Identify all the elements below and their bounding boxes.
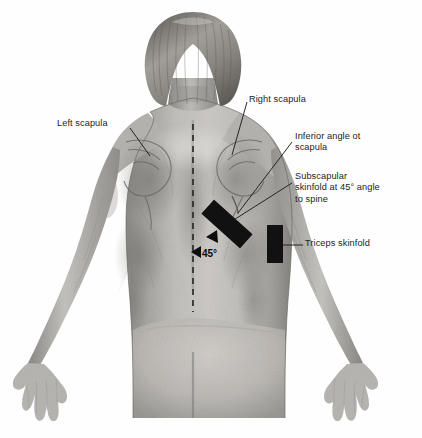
label-subscapular-skinfold: Subscapular skinfold at 45° angle to spi… xyxy=(295,171,380,205)
label-triceps-skinfold: Triceps skinfold xyxy=(305,238,370,249)
label-inferior-angle-of-scapula: Inferior angle ot scapula xyxy=(295,131,360,154)
triceps-mass-left xyxy=(96,174,118,218)
gluteal-region xyxy=(133,318,285,418)
label-left-scapula: Left scapula xyxy=(57,118,108,129)
triceps-skinfold-marker xyxy=(267,225,283,263)
body-figure xyxy=(13,12,378,421)
hand-left xyxy=(13,363,67,421)
anatomy-illustration xyxy=(0,0,422,438)
neck-shadow xyxy=(176,86,210,102)
label-right-scapula: Right scapula xyxy=(249,94,306,105)
hand-right xyxy=(324,363,378,421)
skinfold-diagram-figure: Left scapula Right scapula Inferior angl… xyxy=(0,0,422,438)
label-45-degree-angle: 45° xyxy=(202,248,217,259)
